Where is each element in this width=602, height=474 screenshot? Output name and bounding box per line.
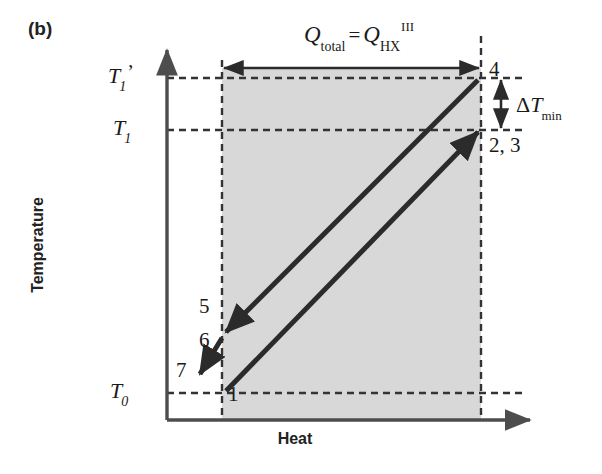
shaded-duty-region [222,68,481,420]
duty-q2-superscript: III [401,19,414,35]
y-tick-label-T0: T0 [110,378,129,407]
duty-q-subscript: total [321,39,346,54]
tick-sub-T1-prime: 1 [119,79,126,94]
approach-temperature-label: ΔTmin [516,92,563,121]
state-point-7: 7 [176,358,187,383]
duty-equals-sign: = [345,23,363,47]
delta-symbol: Δ [516,92,530,117]
duty-q-symbol: Q [304,22,321,47]
approach-subscript: min [541,108,561,123]
duty-q2-subscript: HX [380,39,400,54]
state-point-5: 5 [199,294,210,319]
y-tick-label-T1: T1 [113,115,132,144]
tick-prime-mark: ’ [127,61,134,83]
y-axis-title: Temperature [29,197,47,293]
state-point-6: 6 [199,328,210,353]
state-point-1: 1 [228,382,239,407]
state-point-2-3: 2, 3 [489,133,521,158]
diagram-canvas [0,0,602,474]
figure-panel-b: (b) [0,0,602,474]
tick-sub-T1: 1 [124,131,131,146]
state-point-4: 4 [489,57,500,82]
tick-sub-T0: 0 [121,394,128,409]
x-axis-title: Heat [278,430,313,448]
y-tick-label-T1-prime: T1’ [108,63,134,92]
duty-q2-symbol: Q [363,22,380,47]
duty-equation-label: Qtotal=QHXIII [304,22,400,52]
